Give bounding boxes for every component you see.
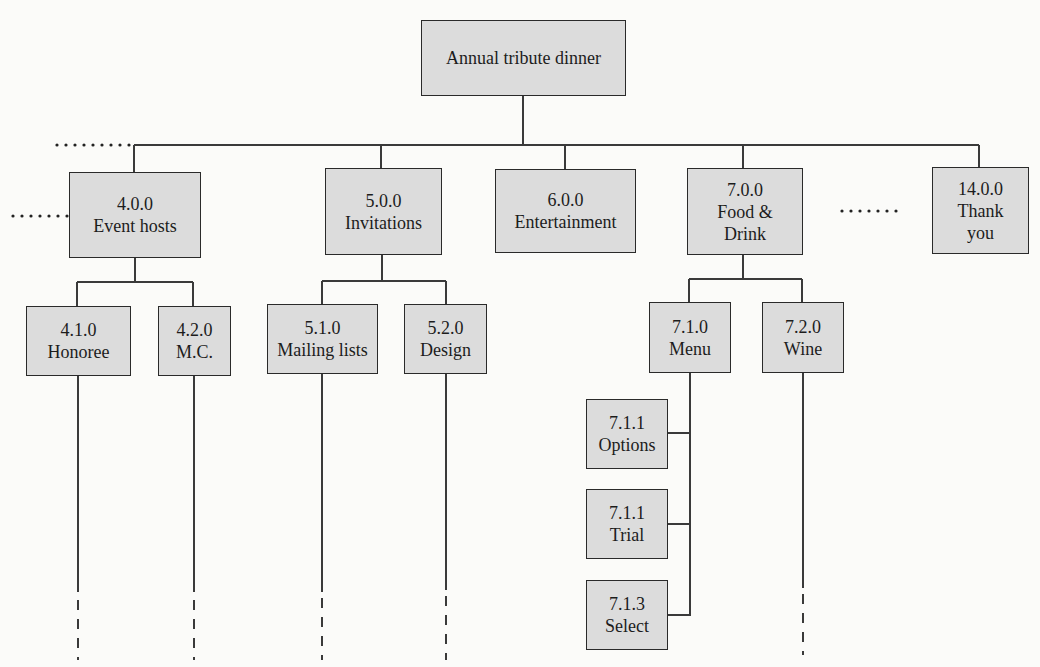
node-design: 5.2.0 Design [404,304,487,374]
node-label: Options [598,434,655,456]
node-select: 7.1.3 Select [586,580,668,650]
node-root: Annual tribute dinner [421,20,626,96]
node-code: 7.1.1 [609,502,645,524]
node-code: 4.1.0 [61,319,97,341]
node-code: 4.2.0 [177,319,213,341]
node-invitations: 5.0.0 Invitations [325,168,442,255]
node-code: 7.2.0 [785,316,821,338]
node-code: 7.1.1 [609,412,645,434]
node-options: 7.1.1 Options [586,399,668,469]
node-label: Design [420,339,471,361]
node-code: 5.0.0 [366,190,402,212]
node-event-hosts: 4.0.0 Event hosts [69,172,201,258]
node-label-line2: you [967,222,994,244]
connector-lines [0,0,1040,667]
node-label: Annual tribute dinner [446,47,601,69]
node-label-line2: Drink [724,223,766,245]
node-code: 5.1.0 [305,317,341,339]
node-label: Menu [669,338,711,360]
node-code: 7.0.0 [727,179,763,201]
node-label: Select [605,615,649,637]
node-honoree: 4.1.0 Honoree [26,306,131,376]
node-mailing-lists: 5.1.0 Mailing lists [267,304,378,374]
node-label: Invitations [345,212,422,234]
node-code: 7.1.3 [609,593,645,615]
node-code: 14.0.0 [958,178,1003,200]
node-label: M.C. [176,341,213,363]
node-wine: 7.2.0 Wine [762,302,844,373]
node-code: 7.1.0 [672,316,708,338]
node-food-drink: 7.0.0 Food & Drink [687,168,803,255]
node-label: Entertainment [515,211,617,233]
node-label: Thank [958,200,1004,222]
node-mc: 4.2.0 M.C. [158,306,231,376]
node-label: Honoree [48,341,110,363]
node-label: Event hosts [93,215,177,237]
node-menu: 7.1.0 Menu [649,302,731,373]
node-label: Trial [610,524,644,546]
node-label: Mailing lists [277,339,368,361]
node-code: 6.0.0 [548,189,584,211]
node-code: 5.2.0 [428,317,464,339]
node-entertainment: 6.0.0 Entertainment [495,169,636,253]
node-trial: 7.1.1 Trial [586,489,668,559]
node-thank-you: 14.0.0 Thank you [932,167,1029,254]
node-code: 4.0.0 [117,193,153,215]
node-label: Food & [717,201,773,223]
node-label: Wine [784,338,822,360]
